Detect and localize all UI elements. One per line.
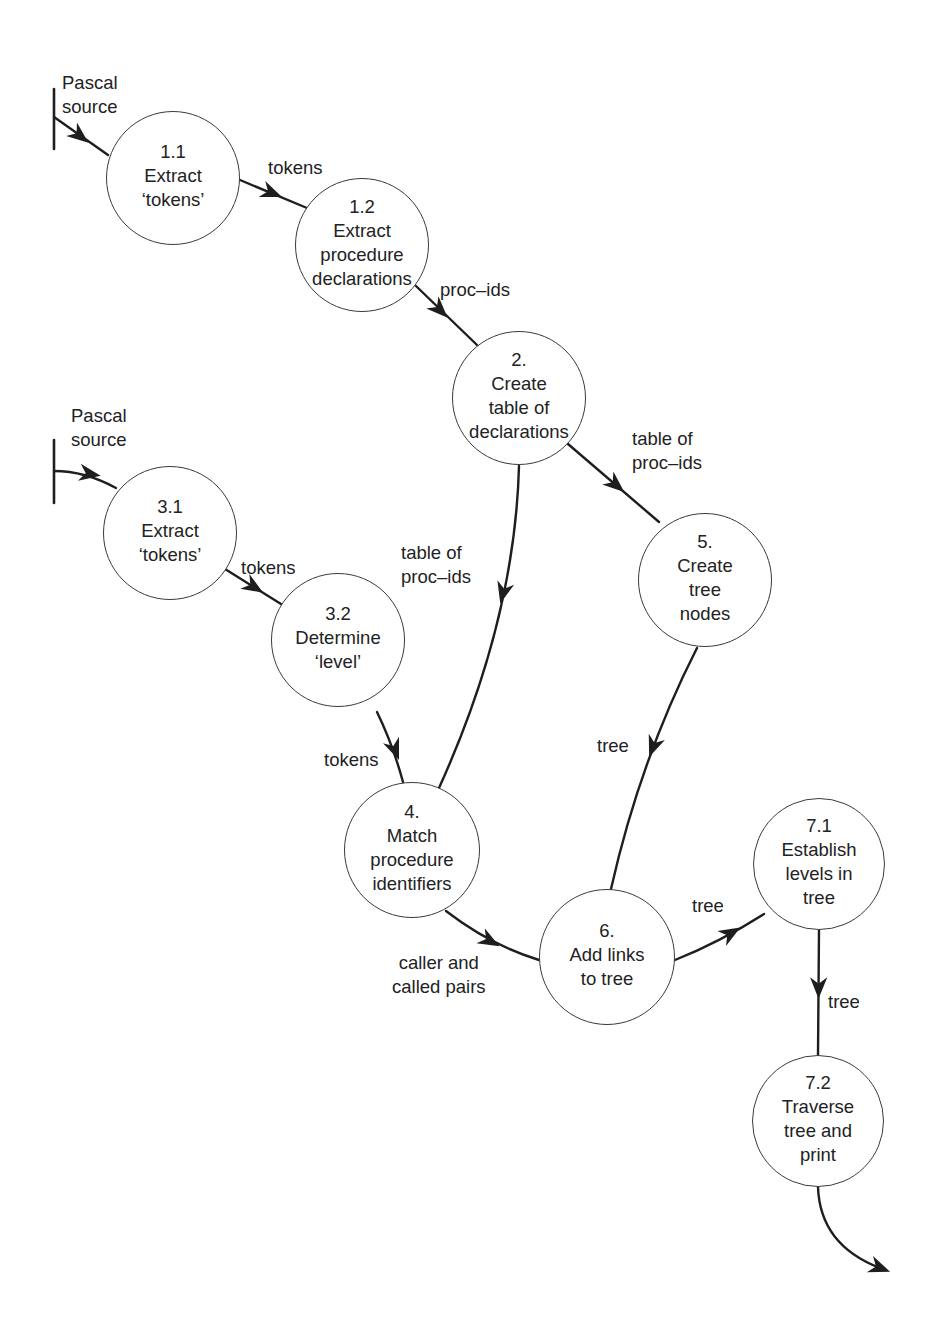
flow-label-table-of-proc-ids-1: table of proc–ids — [632, 427, 702, 475]
process-number: 5. — [697, 530, 712, 554]
flow-label-tree-3: tree — [828, 990, 860, 1014]
process-label-line: Traverse — [782, 1095, 854, 1119]
process-1-1: 1.1 Extract ‘tokens’ — [106, 111, 240, 245]
process-label-line: identifiers — [372, 872, 451, 896]
process-label-line: tree — [803, 886, 835, 910]
data-flow-diagram: Pascal source Pascal source tokens proc–… — [0, 0, 927, 1326]
label-line: proc–ids — [632, 451, 702, 475]
process-number: 1.2 — [349, 195, 375, 219]
process-1-2: 1.2 Extract procedure declarations — [295, 178, 429, 312]
process-label-line: table of — [489, 396, 550, 420]
label-line: Pascal — [71, 404, 127, 428]
process-number: 7.2 — [805, 1071, 831, 1095]
process-label-line: Extract — [141, 519, 199, 543]
process-label-line: declarations — [312, 267, 412, 291]
flow-5-to-6 — [611, 648, 697, 889]
process-label-line: levels in — [786, 862, 853, 886]
flow-label-tree-2: tree — [692, 894, 724, 918]
process-number: 3.2 — [325, 602, 351, 626]
flow-7.2-to-output — [818, 1187, 880, 1268]
process-2: 2. Create table of declarations — [452, 331, 586, 465]
process-label-line: Create — [677, 554, 733, 578]
flow-3.2-to-4 — [377, 712, 403, 782]
process-label-line: Match — [387, 824, 437, 848]
process-number: 1.1 — [160, 140, 186, 164]
flow-label-tree-1: tree — [597, 734, 629, 758]
label-line: Pascal — [62, 71, 118, 95]
process-number: 7.1 — [806, 814, 832, 838]
process-number: 2. — [511, 348, 526, 372]
process-label-line: Add links — [569, 943, 644, 967]
process-label-line: Extract — [144, 164, 202, 188]
label-line: proc–ids — [401, 565, 471, 589]
process-label-line: tree — [689, 578, 721, 602]
flow-label-caller-called-pairs: caller and called pairs — [392, 951, 486, 999]
process-label-line: tree and — [784, 1119, 852, 1143]
process-label-line: Establish — [781, 838, 856, 862]
process-label-line: to tree — [581, 967, 633, 991]
process-label-line: print — [800, 1143, 836, 1167]
label-line: called pairs — [392, 975, 486, 999]
external-source-label-2: Pascal source — [71, 404, 127, 452]
process-label-line: ‘level’ — [315, 650, 361, 674]
label-line: caller and — [392, 951, 486, 975]
process-label-line: ‘tokens’ — [139, 543, 202, 567]
process-label-line: procedure — [370, 848, 453, 872]
process-3-2: 3.2 Determine ‘level’ — [271, 573, 405, 707]
flow-label-proc-ids: proc–ids — [440, 278, 510, 302]
process-label-line: Extract — [333, 219, 391, 243]
process-number: 4. — [404, 800, 419, 824]
process-7-2: 7.2 Traverse tree and print — [752, 1055, 884, 1187]
process-label-line: Determine — [295, 626, 380, 650]
process-5: 5. Create tree nodes — [638, 513, 772, 647]
flow-label-tokens-2: tokens — [241, 556, 296, 580]
process-label-line: Create — [491, 372, 547, 396]
process-label-line: nodes — [680, 602, 730, 626]
process-7-1: 7.1 Establish levels in tree — [753, 798, 885, 930]
process-4: 4. Match procedure identifiers — [344, 782, 480, 918]
flow-label-tokens-3: tokens — [324, 748, 379, 772]
label-line: table of — [401, 541, 471, 565]
external-source-label-1: Pascal source — [62, 71, 118, 119]
process-label-line: procedure — [320, 243, 403, 267]
label-line: source — [71, 428, 127, 452]
process-number: 3.1 — [157, 495, 183, 519]
flow-label-tokens-1: tokens — [268, 156, 323, 180]
process-3-1: 3.1 Extract ‘tokens’ — [103, 466, 237, 600]
process-label-line: declarations — [469, 420, 569, 444]
process-6: 6. Add links to tree — [539, 889, 675, 1025]
label-line: source — [62, 95, 118, 119]
flow-2-to-4 — [439, 466, 519, 788]
flow-label-table-of-proc-ids-2: table of proc–ids — [401, 541, 471, 589]
process-label-line: ‘tokens’ — [142, 188, 205, 212]
label-line: table of — [632, 427, 702, 451]
process-number: 6. — [599, 919, 614, 943]
